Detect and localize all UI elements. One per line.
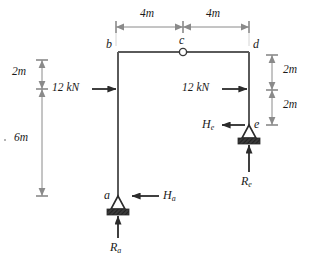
frame-members	[118, 52, 249, 196]
reaction-label-He: He	[202, 118, 214, 132]
reaction-label-Re: Re	[241, 175, 252, 189]
node-label-e: e	[254, 118, 259, 130]
load-label-right: 12 kN	[182, 82, 209, 94]
dimension-label-left-2m: 2m	[12, 66, 26, 78]
reaction-arrows	[118, 125, 249, 238]
hinge-circle-c	[179, 48, 186, 55]
load-label-left: 12 kN	[52, 82, 79, 94]
dimension-label-top-left: 4m	[140, 8, 154, 20]
node-label-a: a	[104, 189, 110, 201]
diagram-canvas	[0, 0, 313, 257]
speck-artifact	[4, 139, 6, 141]
node-label-b: b	[106, 38, 112, 50]
dimension-label-right-upper-2m: 2m	[283, 64, 297, 76]
pin-support-a	[107, 196, 129, 215]
frame-diagram: b c d a e 4m 4m 2m 6m 2m 2m 12 kN 12 kN …	[0, 0, 313, 257]
dimension-label-left-6m: 6m	[14, 132, 28, 144]
dimension-label-top-right: 4m	[206, 8, 220, 20]
left-dimension-line	[36, 60, 48, 196]
reaction-label-Ra: Ra	[110, 241, 121, 255]
dimension-label-right-lower-2m: 2m	[283, 99, 297, 111]
reaction-label-Ha: Ha	[163, 189, 176, 203]
right-dimension-line	[266, 55, 278, 125]
node-label-c: c	[179, 34, 184, 46]
node-label-d: d	[253, 38, 259, 50]
